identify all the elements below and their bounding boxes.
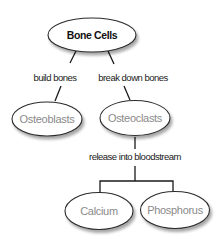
node-label-bone-cells: Bone Cells [67, 29, 118, 41]
edge-line [70, 51, 76, 63]
edge-break-down-bones: break down bones [98, 51, 168, 100]
node-calcium: Calcium [65, 193, 133, 230]
edge-label-break-down-bones: break down bones [98, 72, 168, 83]
node-bone-cells: Bone Cells [48, 18, 136, 52]
edge-label-build-bones: build bones [33, 72, 77, 83]
node-label-phosphorus: Phosphorus [147, 204, 204, 216]
edge-build-bones: build bones [33, 51, 77, 101]
node-label-osteoblasts: Osteoblasts [20, 113, 76, 125]
edge-line [108, 51, 114, 64]
edge-line [55, 86, 61, 101]
node-phosphorus: Phosphorus [141, 192, 210, 229]
concept-map: build bones break down bones release int… [0, 0, 220, 247]
edge-line [124, 86, 130, 100]
node-label-osteoclasts: Osteoclasts [108, 112, 163, 124]
node-osteoblasts: Osteoblasts [12, 102, 82, 136]
edge-release-into-bloodstream: release into bloodstream [89, 137, 182, 194]
node-osteoclasts: Osteoclasts [100, 101, 170, 136]
edge-branch [100, 181, 173, 194]
edge-label-release: release into bloodstream [89, 151, 182, 162]
node-label-calcium: Calcium [80, 205, 118, 217]
